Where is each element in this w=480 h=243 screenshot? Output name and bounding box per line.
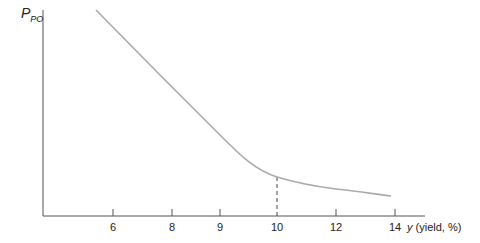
tick-label-8: 8 bbox=[169, 221, 175, 233]
price-curve bbox=[96, 10, 391, 196]
tick-label-9: 9 bbox=[217, 221, 223, 233]
tick-label-14: 14 bbox=[389, 221, 401, 233]
chart-canvas bbox=[0, 0, 480, 243]
y-axis-label: PPO bbox=[21, 5, 43, 21]
x-axis-label: y (yield, %) bbox=[407, 221, 461, 233]
x-ticks bbox=[113, 209, 395, 216]
y-axis-label-main: P bbox=[21, 5, 30, 21]
tick-label-6: 6 bbox=[110, 221, 116, 233]
x-axis-label-text: (yield, %) bbox=[413, 221, 462, 233]
y-axis-label-subscript: PO bbox=[30, 14, 43, 24]
tick-label-12: 12 bbox=[330, 221, 342, 233]
chart: PPO 6 8 9 10 12 14 y (yield, %) bbox=[0, 0, 480, 243]
tick-label-10: 10 bbox=[271, 221, 283, 233]
